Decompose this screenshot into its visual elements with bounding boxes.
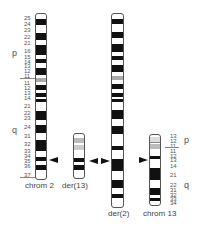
breakpoint-arrow-chrom2 xyxy=(49,157,58,163)
band-label: 14 xyxy=(24,95,30,101)
chrom2-q-arm-label: q xyxy=(12,125,17,135)
breakpoint-arrow-chrom13 xyxy=(139,157,148,163)
der13-caption: der(13) xyxy=(62,181,88,190)
band-label: 23 xyxy=(24,115,30,121)
band-label: 34 xyxy=(170,200,176,206)
band-label: 21 xyxy=(24,103,30,109)
der2-ideogram xyxy=(111,13,124,208)
chrom13-ideogram xyxy=(149,134,161,206)
band-label: 14 xyxy=(170,163,176,169)
chrom13-p-arm-label: p xyxy=(184,135,189,145)
chrom2-p-arm-label: p xyxy=(12,48,17,58)
band-label: 21 xyxy=(170,172,176,178)
chrom13-caption: chrom 13 xyxy=(143,209,176,218)
chrom2-caption: chrom 2 xyxy=(25,181,54,190)
band-label: 21 xyxy=(24,40,30,46)
band-label: 23 xyxy=(24,27,30,33)
centromere-line xyxy=(20,78,36,79)
der13-ideogram xyxy=(73,133,85,179)
chrom13-q-arm-label: q xyxy=(184,180,189,190)
bottom-line xyxy=(20,177,36,178)
band-label: 31 xyxy=(24,133,30,139)
breakpoint-arrow-der2 xyxy=(101,158,110,164)
chrom2-ideogram xyxy=(35,13,47,180)
band-label: 24 xyxy=(24,124,30,130)
breakpoint-arrow-der13 xyxy=(89,158,98,164)
band-label: 32 xyxy=(24,141,30,147)
band-label: 36 xyxy=(24,163,30,169)
der2-caption: der(2) xyxy=(108,209,129,218)
